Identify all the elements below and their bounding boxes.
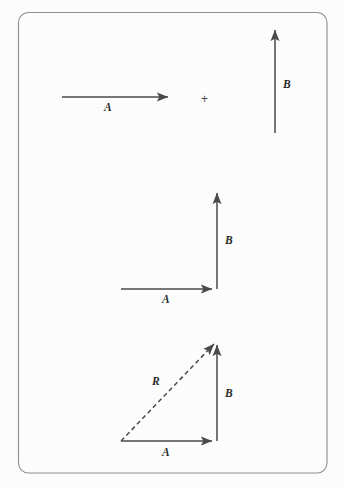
vector-a-label-panel1: A (103, 101, 112, 113)
panel-operands: A + B (62, 30, 291, 133)
panel-resultant: R A B (121, 344, 233, 458)
vector-a-label-panel2: A (161, 293, 170, 305)
panel-tip-to-tail: A B (121, 193, 233, 305)
vector-r-label-panel3: R (151, 375, 160, 387)
plus-operator-icon: + (201, 92, 208, 106)
vector-a-label-panel3: A (161, 446, 170, 458)
figure-border (19, 13, 328, 474)
vector-b-label-panel3: B (224, 387, 233, 399)
figure-canvas: A + B A B R A B (0, 0, 344, 487)
vector-b-label-panel2: B (224, 234, 233, 246)
vector-b-label-panel1: B (282, 78, 291, 90)
vector-addition-figure: A + B A B R A B (0, 0, 344, 487)
vector-r-arrow-panel3 (121, 344, 214, 441)
